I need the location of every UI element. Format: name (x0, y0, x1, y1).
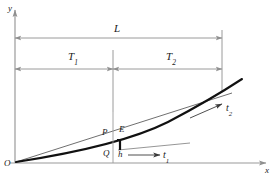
tangent-label-t2: t2 (226, 103, 232, 116)
dimension-label-T1-subscript: 1 (74, 58, 78, 67)
y-axis-label: y (8, 4, 12, 13)
tangent-label-t2-subscript: 2 (229, 110, 232, 117)
axis-group (10, 10, 266, 163)
tangent-label-t1: t1 (163, 150, 169, 163)
tangent-line-t1 (118, 143, 190, 150)
dimension-L-group (15, 30, 222, 92)
dimension-label-T2: T2 (166, 51, 176, 65)
parabolic-curve-group (16, 79, 242, 162)
point-label-P: P (102, 128, 108, 137)
diagram-canvas (0, 0, 275, 181)
dimension-T-group (15, 50, 222, 112)
point-label-Q: Q (103, 149, 110, 158)
origin-label: O (4, 159, 11, 168)
point-label-E: E (119, 125, 125, 134)
vertical-curve-diagram: y x O L T1 T2 P E Q h t1 t2 (0, 0, 275, 181)
x-axis-label: x (265, 166, 269, 175)
dimension-label-T1: T1 (68, 51, 78, 65)
dimension-label-L: L (114, 23, 120, 34)
parabolic-curve (16, 79, 242, 162)
tangent-arrow-t2 (190, 104, 222, 118)
point-label-h: h (118, 150, 123, 159)
tangent-label-t1-subscript: 1 (166, 157, 169, 164)
dimension-label-T2-subscript: 2 (172, 58, 176, 67)
